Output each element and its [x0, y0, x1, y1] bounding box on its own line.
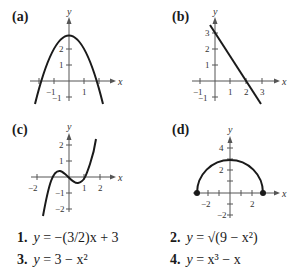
- equation-4: 4.y = x³ − x: [170, 252, 241, 268]
- svg-text:−2: −2: [217, 210, 227, 220]
- svg-text:2: 2: [219, 165, 224, 175]
- svg-text:y: y: [227, 124, 233, 135]
- equation-1: 1.y = −(3/2)x + 3: [17, 230, 119, 246]
- equation-2: 2.y = √(9 − x²): [170, 230, 258, 246]
- svg-text:−2: −2: [201, 199, 211, 209]
- equation-3: 3.y = 3 − x²: [17, 252, 88, 268]
- svg-text:x: x: [281, 188, 287, 199]
- svg-text:2: 2: [250, 199, 255, 209]
- svg-text:4: 4: [219, 143, 224, 153]
